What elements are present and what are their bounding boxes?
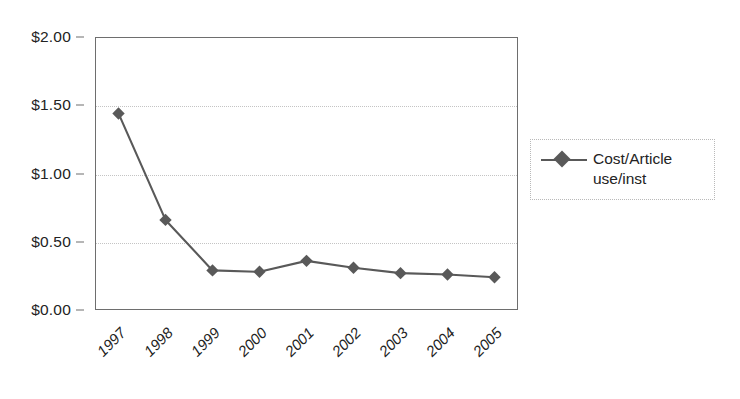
line-chart-figure: $2.00 $1.50 $1.00 $0.50 $0.00 1997199819… xyxy=(0,0,740,399)
gridline-0.50 xyxy=(96,243,517,244)
y-tick-mark xyxy=(76,173,84,174)
x-tick-label-2004: 2004 xyxy=(403,324,457,378)
y-tick-mark xyxy=(76,105,84,106)
x-tick-label-2003: 2003 xyxy=(356,324,410,378)
gridline-1.50 xyxy=(96,106,517,107)
y-tick-mark xyxy=(76,241,84,242)
x-tick-label-1997: 1997 xyxy=(74,324,128,378)
legend-label: Cost/Article use/inst xyxy=(593,149,672,189)
x-tick-label-2000: 2000 xyxy=(215,324,269,378)
x-tick-label-2001: 2001 xyxy=(262,324,316,378)
y-tick-label-1.00: $1.00 xyxy=(31,165,71,183)
x-tick-label-1999: 1999 xyxy=(168,324,222,378)
y-tick-label-0.00: $0.00 xyxy=(31,301,71,319)
x-tick-label-2002: 2002 xyxy=(309,324,363,378)
x-axis: 199719981999200020012002200320042005 xyxy=(95,310,518,395)
legend-diamond-marker-icon xyxy=(539,150,589,169)
y-tick-mark xyxy=(76,37,84,38)
y-tick-label-2.00: $2.00 xyxy=(31,28,71,46)
y-tick-mark xyxy=(76,310,84,311)
legend: Cost/Article use/inst xyxy=(530,139,715,200)
x-tick-label-1998: 1998 xyxy=(121,324,175,378)
y-tick-label-0.50: $0.50 xyxy=(31,233,71,251)
y-tick-label-1.50: $1.50 xyxy=(31,96,71,114)
plot-area xyxy=(95,37,518,310)
x-tick-label-2005: 2005 xyxy=(450,324,504,378)
y-axis: $2.00 $1.50 $1.00 $0.50 $0.00 xyxy=(12,37,84,310)
gridline-1.00 xyxy=(96,175,517,176)
